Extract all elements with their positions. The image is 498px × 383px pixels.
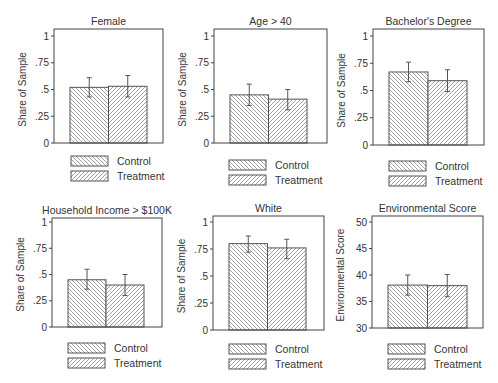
y-axis: 0.25.5.751 [35,31,54,149]
legend: ControlTreatment [229,159,323,186]
panel-title: Bachelor's Degree [385,15,471,27]
y-tick-label: .75 [194,244,208,255]
bar-treatment [268,248,307,330]
y-tick-label: .25 [194,298,208,309]
legend-item-treatment: Treatment [68,357,162,369]
legend-swatch [229,344,266,354]
y-tick-label: 0 [203,138,209,149]
panel-title: White [255,202,282,214]
panel-household-income: Household Income > $100K0.25.5.751Share … [15,204,172,369]
legend-label: Treatment [275,358,323,370]
y-tick-label: .75 [33,243,47,254]
legend-item-treatment: Treatment [229,174,323,186]
y-axis: 0.25.5.751 [194,217,213,336]
y-tick-label: 45 [356,243,368,254]
legend-swatch [229,175,266,185]
panel-female: Female0.25.5.751Share of SampleControlTr… [17,15,165,182]
legend-item-treatment: Treatment [388,358,482,370]
panel-age-over-40: Age > 400.25.5.751Share of SampleControl… [177,15,327,186]
y-tick-label: 1 [43,31,49,42]
legend-label: Control [435,160,469,172]
y-tick-label: .25 [35,111,49,122]
legend-swatch [388,359,425,369]
legend-item-treatment: Treatment [229,358,323,370]
y-tick-label: 40 [356,270,368,281]
legend-label: Control [117,155,151,167]
y-tick-label: 35 [356,296,368,307]
legend-item-treatment: Treatment [71,170,165,182]
legend-swatch [68,358,105,368]
y-tick-label: .25 [33,295,47,306]
legend-label: Treatment [435,175,483,187]
y-tick-label: .75 [35,57,49,68]
legend-item-control: Control [71,155,151,167]
legend-label: Treatment [117,170,165,182]
legend-item-control: Control [389,160,469,172]
panel-title: Household Income > $100K [42,204,172,216]
legend-item-control: Control [68,342,148,354]
y-tick-label: 0 [41,322,47,333]
y-tick-label: 1 [41,217,47,228]
legend: ControlTreatment [71,155,165,182]
legend-swatch [389,161,426,171]
legend-label: Control [434,343,468,355]
y-tick-label: 0 [202,325,208,336]
legend-swatch [388,344,425,354]
legend-swatch [71,156,108,166]
y-axis: 0.25.5.751 [354,31,373,151]
bar-control [389,72,428,145]
y-axis-label: Share of Sample [177,52,188,127]
y-axis: 0.25.5.751 [195,31,214,149]
y-tick-label: 1 [203,31,209,42]
legend-label: Treatment [434,358,482,370]
y-tick-label: 0 [362,140,368,151]
y-axis-label: Share of Sample [15,237,26,312]
legend: ControlTreatment [68,342,162,369]
y-tick-label: .5 [200,271,209,282]
legend-item-control: Control [388,343,468,355]
legend-label: Treatment [275,174,323,186]
legend-label: Control [114,342,148,354]
panel-title: Environmental Score [379,202,477,214]
y-tick-label: 0 [43,138,49,149]
figure: Female0.25.5.751Share of SampleControlTr… [0,0,498,383]
y-axis-label: Share of Sample [17,52,28,127]
legend-swatch [229,160,266,170]
legend: ControlTreatment [389,160,483,187]
y-tick-label: 1 [202,217,208,228]
legend-item-control: Control [229,343,309,355]
y-tick-label: 1 [362,31,368,42]
legend-swatch [389,176,426,186]
y-axis: 0.25.5.751 [33,217,52,333]
y-axis-label: Environmental Score [335,228,346,321]
panel-title: Age > 40 [249,15,291,27]
y-tick-label: 30 [356,323,368,334]
y-axis-label: Share of Sample [176,238,187,313]
legend-swatch [229,359,266,369]
y-tick-label: .75 [354,58,368,69]
legend-label: Treatment [114,357,162,369]
panel-title: Female [91,15,126,27]
legend-label: Control [275,343,309,355]
panel-environmental-score: Environmental Score3035404550Environment… [335,202,483,370]
legend-swatch [71,171,108,181]
y-axis: 3035404550 [356,217,372,334]
legend-swatch [68,343,105,353]
bar-control [229,244,268,330]
y-axis-label: Share of Sample [336,53,347,128]
y-tick-label: .25 [354,112,368,123]
y-tick-label: .75 [195,57,209,68]
legend-item-control: Control [229,159,309,171]
panel-white: White0.25.5.751Share of SampleControlTre… [176,202,324,370]
y-tick-label: 50 [356,217,368,228]
legend-label: Control [275,159,309,171]
legend: ControlTreatment [229,343,323,370]
y-tick-label: .25 [195,111,209,122]
legend-item-treatment: Treatment [389,175,483,187]
y-tick-label: .5 [39,269,48,280]
y-tick-label: .5 [201,84,210,95]
panel-bachelors-degree: Bachelor's Degree0.25.5.751Share of Samp… [336,15,484,187]
y-tick-label: .5 [41,84,50,95]
y-tick-label: .5 [360,85,369,96]
legend: ControlTreatment [388,343,482,370]
